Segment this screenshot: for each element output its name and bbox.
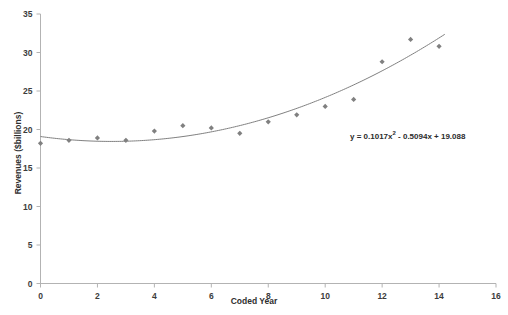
axis-lines (40, 14, 496, 284)
data-point-marker (351, 97, 356, 102)
data-point-marker (237, 131, 242, 136)
data-point-marker (180, 123, 185, 128)
data-point-marker (266, 119, 271, 124)
trendline-equation-label: y = 0.1017x2 - 0.5094x + 19.088 (350, 130, 465, 141)
chart-container: 05101520253035 0246810121416 Revenues ($… (0, 0, 508, 315)
y-axis-ticks (37, 14, 41, 284)
x-axis-title: Coded Year (0, 296, 508, 306)
data-point-marker (95, 135, 100, 140)
x-axis-ticks (41, 284, 497, 288)
y-tick-label: 30 (0, 48, 33, 58)
equation-suffix: - 0.5094x + 19.088 (396, 132, 466, 141)
y-tick-label: 5 (0, 240, 33, 250)
equation-prefix: y = 0.1017x (350, 132, 392, 141)
y-axis-title: Revenues ($billions) (13, 73, 23, 233)
data-point-marker (323, 104, 328, 109)
trendline-curve (41, 34, 445, 141)
plot-area (0, 0, 508, 315)
data-point-marker (380, 59, 385, 64)
data-point-marker (123, 138, 128, 143)
data-point-marker (38, 141, 43, 146)
data-point-marker (408, 37, 413, 42)
data-point-marker (66, 138, 71, 143)
y-tick-label: 0 (0, 279, 33, 289)
data-point-marker (294, 112, 299, 117)
y-tick-label: 35 (0, 9, 33, 19)
data-point-marker (436, 44, 441, 49)
data-point-marker (152, 128, 157, 133)
data-point-marker (209, 125, 214, 130)
